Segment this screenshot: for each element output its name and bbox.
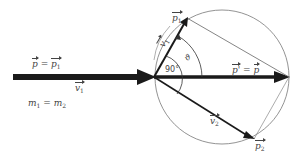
incoming-arrowhead — [137, 69, 156, 85]
m2-symbol: m — [54, 98, 63, 108]
outgoing-v2-label: v2 — [210, 117, 219, 127]
p-prime-symbol: p' — [232, 66, 240, 75]
p-symbol: p — [32, 60, 38, 69]
incoming-momentum-label: p = p1 — [32, 60, 61, 70]
equals-sign: = — [40, 98, 53, 108]
p1-subscript: 1 — [57, 63, 61, 70]
chord-p2-to-p — [254, 77, 289, 139]
diagram-canvas — [0, 0, 301, 155]
outgoing-p2-label: p2 — [255, 142, 265, 152]
right-angle-label: 90° — [165, 66, 179, 74]
p1-out-subscript: 1 — [178, 17, 182, 24]
v1-subscript: 1 — [80, 87, 84, 94]
mass-relation-label: m1 = m2 — [28, 99, 66, 109]
p-symbol: p — [254, 66, 260, 75]
p2-out-subscript: 2 — [261, 145, 265, 152]
collision-diagram: p = p1 v1 m1 = m2 p1 v1 ϑ 90° p' = p v2 … — [0, 0, 301, 155]
incoming-velocity-label: v1 — [75, 84, 84, 94]
equals-sign: = — [38, 59, 51, 69]
equals-sign: = — [240, 65, 253, 75]
right-angle-arc — [166, 56, 182, 94]
p2-arrowhead — [243, 131, 255, 139]
outgoing-p2-arrow — [154, 77, 248, 136]
v2-out-subscript: 2 — [215, 120, 219, 127]
m2-subscript: 2 — [62, 102, 66, 109]
m1-symbol: m — [28, 98, 37, 108]
total-momentum-label: p' = p — [232, 66, 259, 75]
outgoing-p1-label: p1 — [172, 14, 182, 24]
